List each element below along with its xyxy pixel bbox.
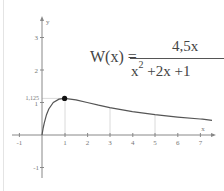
x-tick-label: 3 — [108, 139, 112, 147]
x-tick-label: 1 — [63, 139, 67, 147]
y-axis-arrow-icon — [40, 16, 44, 21]
maximum-point — [62, 96, 67, 101]
guide-lines — [42, 98, 155, 135]
formula-denominator: x2 +2x +1 — [131, 61, 224, 80]
chart-frame: -1 1 2 3 4 5 6 7 x 3 2 — [0, 0, 224, 191]
x-tick-label: 4 — [131, 139, 135, 147]
y-axis-label: y — [46, 18, 50, 26]
formula-numerator: 4,5x — [146, 38, 224, 55]
x-tick-label: 5 — [153, 139, 157, 147]
y-axis: 3 2 1,125 1 -1 y — [26, 16, 51, 178]
x-tick-label: -1 — [16, 139, 22, 147]
y-tick-label: 1 — [35, 100, 39, 108]
x-axis-label: x — [201, 125, 205, 133]
formula-lhs: W(x) = — [90, 48, 137, 66]
denominator-base: x — [131, 63, 139, 79]
y-tick-label: 3 — [35, 34, 39, 42]
y-tick-label: -1 — [33, 164, 39, 172]
x-tick-label: 6 — [176, 139, 180, 147]
denominator-exponent: 2 — [139, 59, 144, 70]
denominator-rest: +2x +1 — [144, 63, 191, 79]
fraction-bar — [130, 58, 224, 59]
curve-w-of-x — [42, 98, 212, 135]
x-tick-label: 2 — [86, 139, 90, 147]
y-tick-label: 2 — [35, 67, 39, 75]
x-tick-label: 7 — [199, 139, 203, 147]
x-axis-arrow-icon — [211, 133, 216, 137]
chart-plot: -1 1 2 3 4 5 6 7 x 3 2 — [0, 0, 224, 191]
